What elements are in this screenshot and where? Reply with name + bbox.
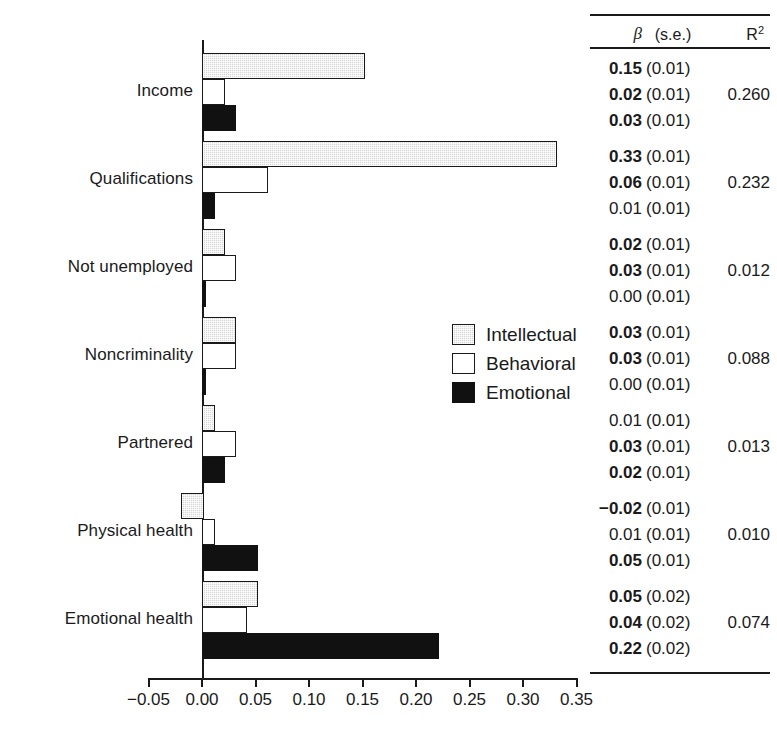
x-axis-tick-label-3: 0.10 bbox=[292, 690, 325, 710]
stats-beta-5-1: 0.01 bbox=[590, 525, 642, 545]
bar-emotional-6 bbox=[202, 633, 439, 659]
stats-se-1-2: (0.01) bbox=[642, 199, 708, 219]
stats-row: 0.05(0.01) bbox=[590, 548, 770, 574]
bar-behavioral-1 bbox=[202, 167, 268, 193]
stats-se-6-2: (0.02) bbox=[642, 639, 708, 659]
stats-row: 0.01(0.01) bbox=[590, 408, 770, 434]
x-axis-tick-1 bbox=[201, 678, 203, 687]
bar-intellectual-4 bbox=[202, 405, 215, 431]
category-label-6: Emotional health bbox=[8, 609, 193, 629]
x-axis-tick-label-4: 0.15 bbox=[346, 690, 379, 710]
legend-swatch-behavioral bbox=[452, 353, 475, 374]
stats-beta-0-1: 0.02 bbox=[590, 85, 642, 105]
stats-table-header: β (s.e.) R2 bbox=[590, 16, 770, 47]
stats-row: 0.05(0.02) bbox=[590, 584, 770, 610]
x-axis-tick-label-2: 0.05 bbox=[239, 690, 272, 710]
stats-row: 0.01(0.01)0.010 bbox=[590, 522, 770, 548]
x-axis-tick-0 bbox=[148, 678, 150, 687]
category-label-5: Physical health bbox=[8, 521, 193, 541]
category-label-column: IncomeQualificationsNot unemployedNoncri… bbox=[8, 0, 193, 660]
stats-r2-0-1: 0.260 bbox=[708, 85, 770, 105]
bar-intellectual-6 bbox=[202, 581, 258, 607]
x-axis: −0.050.000.050.100.150.200.250.300.35 bbox=[0, 678, 777, 729]
stats-se-4-0: (0.01) bbox=[642, 411, 708, 431]
stats-beta-3-1: 0.03 bbox=[590, 349, 642, 369]
stats-row: 0.03(0.01)0.012 bbox=[590, 258, 770, 284]
x-axis-tick-label-7: 0.30 bbox=[506, 690, 539, 710]
stats-beta-4-1: 0.03 bbox=[590, 437, 642, 457]
stats-row: 0.15(0.01) bbox=[590, 56, 770, 82]
stats-se-0-2: (0.01) bbox=[642, 111, 708, 131]
x-axis-tick-label-5: 0.20 bbox=[399, 690, 432, 710]
x-axis-tick-label-6: 0.25 bbox=[453, 690, 486, 710]
table-header-rule bbox=[590, 47, 770, 49]
x-axis-tick-label-1: 0.00 bbox=[185, 690, 218, 710]
stats-row: 0.03(0.01) bbox=[590, 108, 770, 134]
bar-emotional-3 bbox=[202, 369, 206, 395]
stats-se-0-0: (0.01) bbox=[642, 59, 708, 79]
legend-swatch-emotional bbox=[452, 382, 475, 403]
bar-behavioral-5 bbox=[202, 519, 215, 545]
stats-se-3-2: (0.01) bbox=[642, 375, 708, 395]
stats-se-4-1: (0.01) bbox=[642, 437, 708, 457]
stats-group-3: 0.03(0.01)0.03(0.01)0.0880.00(0.01) bbox=[590, 320, 770, 398]
stats-se-5-0: (0.01) bbox=[642, 499, 708, 519]
stats-se-5-2: (0.01) bbox=[642, 551, 708, 571]
x-axis-tick-4 bbox=[362, 678, 364, 687]
bar-intellectual-3 bbox=[202, 317, 236, 343]
stats-row: 0.00(0.01) bbox=[590, 372, 770, 398]
stats-table: β (s.e.) R2 0.15(0.01)0.02(0.01)0.2600.0… bbox=[590, 14, 770, 49]
stats-se-5-1: (0.01) bbox=[642, 525, 708, 545]
stats-row: 0.03(0.01)0.013 bbox=[590, 434, 770, 460]
x-axis-tick-7 bbox=[522, 678, 524, 687]
stats-r2-3-1: 0.088 bbox=[708, 349, 770, 369]
x-axis-tick-2 bbox=[255, 678, 257, 687]
stats-group-1: 0.33(0.01)0.06(0.01)0.2320.01(0.01) bbox=[590, 144, 770, 222]
stats-group-0: 0.15(0.01)0.02(0.01)0.2600.03(0.01) bbox=[590, 56, 770, 134]
bar-behavioral-6 bbox=[202, 607, 247, 633]
category-label-3: Noncriminality bbox=[8, 345, 193, 365]
stats-row: 0.03(0.01) bbox=[590, 320, 770, 346]
legend-label-behavioral: Behavioral bbox=[486, 353, 576, 375]
bar-emotional-5 bbox=[202, 545, 258, 571]
bar-intellectual-1 bbox=[202, 141, 557, 167]
stats-row: −0.02(0.01) bbox=[590, 496, 770, 522]
stats-r2-2-1: 0.012 bbox=[708, 261, 770, 281]
stats-se-4-2: (0.01) bbox=[642, 463, 708, 483]
stats-group-4: 0.01(0.01)0.03(0.01)0.0130.02(0.01) bbox=[590, 408, 770, 486]
stats-beta-2-0: 0.02 bbox=[590, 235, 642, 255]
stats-row: 0.01(0.01) bbox=[590, 196, 770, 222]
bar-intellectual-2 bbox=[202, 229, 225, 255]
header-se: (s.e.) bbox=[642, 26, 704, 44]
bar-behavioral-3 bbox=[202, 343, 236, 369]
stats-se-0-1: (0.01) bbox=[642, 85, 708, 105]
x-axis-tick-8 bbox=[576, 678, 578, 687]
category-label-0: Income bbox=[8, 81, 193, 101]
bar-intellectual-5 bbox=[181, 493, 204, 519]
stats-beta-4-0: 0.01 bbox=[590, 411, 642, 431]
x-axis-tick-5 bbox=[415, 678, 417, 687]
header-beta: β bbox=[590, 24, 642, 44]
stats-beta-2-1: 0.03 bbox=[590, 261, 642, 281]
stats-group-2: 0.02(0.01)0.03(0.01)0.0120.00(0.01) bbox=[590, 232, 770, 310]
stats-se-2-2: (0.01) bbox=[642, 287, 708, 307]
stats-se-1-1: (0.01) bbox=[642, 173, 708, 193]
stats-row: 0.03(0.01)0.088 bbox=[590, 346, 770, 372]
stats-row: 0.02(0.01) bbox=[590, 460, 770, 486]
stats-se-3-0: (0.01) bbox=[642, 323, 708, 343]
stats-beta-1-0: 0.33 bbox=[590, 147, 642, 167]
stats-row: 0.00(0.01) bbox=[590, 284, 770, 310]
x-axis-tick-label-0: −0.05 bbox=[127, 690, 170, 710]
stats-row: 0.02(0.01) bbox=[590, 232, 770, 258]
stats-beta-5-2: 0.05 bbox=[590, 551, 642, 571]
x-axis-tick-3 bbox=[308, 678, 310, 687]
category-label-4: Partnered bbox=[8, 433, 193, 453]
bar-behavioral-0 bbox=[202, 79, 225, 105]
stats-group-6: 0.05(0.02)0.04(0.02)0.0740.22(0.02) bbox=[590, 584, 770, 662]
table-bottom-rule bbox=[590, 672, 770, 674]
stats-se-3-1: (0.01) bbox=[642, 349, 708, 369]
stats-beta-1-2: 0.01 bbox=[590, 199, 642, 219]
legend: IntellectualBehavioralEmotional bbox=[452, 320, 577, 407]
category-label-2: Not unemployed bbox=[8, 257, 193, 277]
stats-r2-6-1: 0.074 bbox=[708, 613, 770, 633]
